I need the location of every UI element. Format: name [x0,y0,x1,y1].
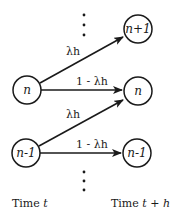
svg-text:n-1: n-1 [127,146,146,160]
label-lambda-h-upper: λh [66,45,80,58]
label-one-minus-lambda-h-lower: 1 - λh [76,138,108,151]
label-one-minus-lambda-h-upper: 1 - λh [76,75,108,88]
node-left-n: n [13,76,41,104]
node-right-n-plus-1: n+1 [124,15,152,43]
ellipsis-top [83,14,86,37]
node-right-n-minus-1: n-1 [123,139,151,167]
node-left-n-minus-1: n-1 [12,139,40,167]
svg-text:n: n [23,83,31,97]
node-right-n: n [124,77,152,105]
transition-diagram: λh 1 - λh λh 1 - λh n n-1 n+1 n n-1 Time… [0,0,173,220]
time-t-plus-h-label: Time t + h [111,197,170,210]
svg-text:n+1: n+1 [125,22,150,36]
svg-text:n-1: n-1 [16,146,35,160]
time-t-label: Time t [12,197,48,210]
label-lambda-h-lower: λh [66,108,80,121]
ellipsis-bottom [83,171,86,192]
svg-text:n: n [134,84,142,98]
